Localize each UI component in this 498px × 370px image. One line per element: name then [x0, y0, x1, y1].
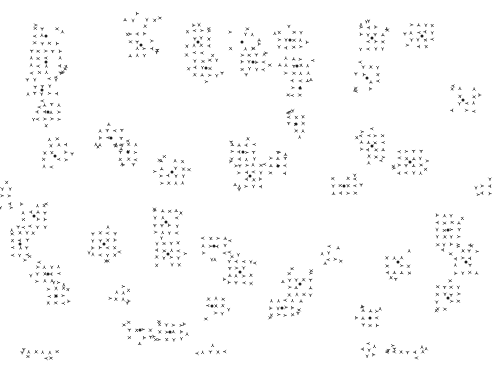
cluster-center-dot — [241, 41, 244, 44]
cluster-center-dot — [171, 171, 174, 174]
cluster-center-dot — [281, 307, 284, 310]
cluster-center-dot — [165, 221, 168, 224]
cluster-center-dot — [249, 175, 252, 178]
cluster-center-dot — [371, 37, 374, 40]
cluster-center-dot — [465, 261, 468, 264]
cluster-center-dot — [213, 245, 216, 248]
cluster-center-dot — [397, 261, 400, 264]
cluster-center-dot — [447, 229, 450, 232]
cluster-center-dot — [41, 89, 44, 92]
cluster-center-dot — [45, 35, 48, 38]
cluster-center-dot — [167, 253, 170, 256]
cluster-center-dot — [462, 99, 465, 102]
cluster-center-dot — [289, 39, 292, 42]
artwork-canvas — [0, 0, 498, 370]
cluster-center-dot — [54, 155, 57, 158]
cluster-center-dot — [252, 61, 255, 64]
cluster-center-dot — [409, 161, 412, 164]
cluster-center-dot — [47, 273, 50, 276]
cluster-center-dot — [296, 65, 299, 68]
cluster-center-dot — [211, 305, 214, 308]
cluster-center-dot — [295, 123, 298, 126]
cluster-center-dot — [33, 215, 36, 218]
cluster-center-dot — [277, 165, 280, 168]
cluster-center-dot — [103, 243, 106, 246]
cluster-center-dot — [205, 67, 208, 70]
cluster-center-dot — [366, 77, 369, 80]
cluster-center-dot — [19, 243, 22, 246]
cluster-center-dot — [421, 35, 424, 38]
cluster-center-dot — [45, 61, 48, 64]
cluster-center-dot — [369, 317, 372, 320]
cluster-center-dot — [447, 297, 450, 300]
cluster-center-dot — [55, 295, 58, 298]
cluster-center-dot — [299, 87, 302, 90]
cluster-center-dot — [140, 44, 143, 47]
cluster-center-dot — [169, 331, 172, 334]
cluster-center-dot — [371, 145, 374, 148]
cluster-center-dot — [299, 283, 302, 286]
cluster-center-dot — [343, 185, 346, 188]
cluster-center-dot — [47, 111, 50, 114]
cluster-center-dot — [110, 137, 113, 140]
generative-glyph-pattern — [0, 0, 498, 370]
cluster-center-dot — [239, 271, 242, 274]
cluster-center-dot — [139, 329, 142, 332]
cluster-center-dot — [197, 41, 200, 44]
cluster-center-dot — [242, 151, 245, 154]
cluster-center-dot — [127, 151, 130, 154]
